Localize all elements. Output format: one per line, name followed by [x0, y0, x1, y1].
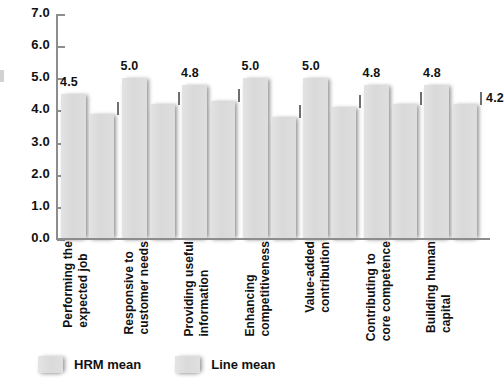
legend-label: HRM mean	[74, 357, 141, 372]
x-axis-category-label-text: Building human capital	[424, 241, 453, 333]
y-axis-tick-label: 3.0	[10, 134, 50, 149]
x-axis-category-label-rotator: Enhancing competitiveness	[243, 241, 299, 349]
bar-hrm-mean	[61, 94, 86, 239]
legend-label: Line mean	[211, 357, 275, 372]
bar-line-mean	[150, 104, 175, 239]
bar-group: 5.03.8	[243, 14, 299, 239]
bar-value-label-hrm: 5.0	[121, 59, 139, 73]
x-axis-category-label-text: Enhancing competitiveness	[243, 241, 272, 337]
legend-item[interactable]: Line mean	[175, 356, 275, 373]
bar-line-mean	[271, 117, 296, 239]
x-axis-category-label-text: Responsive to customer needs	[122, 241, 151, 334]
bar-line-mean	[89, 114, 114, 239]
x-axis-category-label: Providing useful information	[182, 241, 238, 349]
bar-hrm-mean	[122, 78, 147, 239]
bar-hrm-mean	[303, 78, 328, 239]
chart-legend: HRM meanLine mean	[38, 356, 309, 373]
bar-group: 5.04.2	[122, 14, 178, 239]
x-axis-category-label: Performing the expected job	[61, 241, 117, 349]
legend-swatch	[38, 356, 63, 373]
x-axis-category-label-text: Providing useful information	[182, 241, 211, 337]
x-axis-category-label: Building human capital	[424, 241, 480, 349]
bar-line-mean	[392, 104, 417, 239]
bar-hrm-mean	[424, 85, 449, 239]
bar-value-label-hrm: 4.8	[181, 66, 199, 80]
bar-group: 4.53.9	[61, 14, 117, 239]
bar-value-label-line: 4.2	[480, 92, 504, 105]
x-axis-category-label-rotator: Building human capital	[424, 241, 480, 349]
bar-line-mean	[331, 107, 356, 239]
bar-hrm-mean	[243, 78, 268, 239]
x-axis-category-label-rotator: Performing the expected job	[61, 241, 117, 349]
y-axis-tick-label: 1.0	[10, 198, 50, 213]
x-axis-category-label-rotator: Providing useful information	[182, 241, 238, 349]
x-axis-category-label-text: Value-added contribution	[303, 241, 332, 313]
legend-swatch	[175, 356, 200, 373]
plot-area: 4.53.95.04.24.84.35.03.85.04.14.84.24.84…	[58, 14, 490, 239]
legend-item[interactable]: HRM mean	[38, 356, 141, 373]
bar-group: 4.84.2	[424, 14, 480, 239]
x-axis-category-label: Enhancing competitiveness	[243, 241, 299, 349]
bar-line-mean	[210, 101, 235, 239]
bar-hrm-mean	[364, 85, 389, 239]
x-axis-category-label-text: Performing the expected job	[61, 241, 90, 328]
bar-value-label-hrm: 5.0	[242, 59, 260, 73]
x-axis-line	[56, 238, 490, 240]
y-axis-tick-label: 0.0	[10, 230, 50, 245]
bar-value-label-hrm: 4.5	[60, 75, 78, 89]
bar-group: 5.04.1	[303, 14, 359, 239]
bar-value-label-hrm: 5.0	[302, 59, 320, 73]
y-axis-tick-label: 7.0	[10, 5, 50, 20]
x-axis-category-label-rotator: Value-added contribution	[303, 241, 359, 349]
x-axis-category-labels: Performing the expected jobResponsive to…	[58, 241, 490, 349]
x-axis-category-label-rotator: Contributing to core competence	[364, 241, 420, 349]
x-axis-category-label-text: Contributing to core competence	[364, 241, 393, 341]
bar-group: 4.84.2	[364, 14, 420, 239]
bar-hrm-mean	[182, 85, 207, 239]
x-axis-category-label: Contributing to core competence	[364, 241, 420, 349]
bar-line-mean	[452, 104, 477, 239]
bar-value-label-hrm: 4.8	[363, 66, 381, 80]
bar-value-label-hrm: 4.8	[423, 66, 441, 80]
axis-title-artifact	[0, 70, 4, 82]
y-axis-tick-label: 5.0	[10, 69, 50, 84]
y-axis-tick-label: 2.0	[10, 166, 50, 181]
y-axis-tick-label: 6.0	[10, 37, 50, 52]
x-axis-category-label-rotator: Responsive to customer needs	[122, 241, 178, 349]
x-axis-category-label: Responsive to customer needs	[122, 241, 178, 349]
bar-group: 4.84.3	[182, 14, 238, 239]
x-axis-category-label: Value-added contribution	[303, 241, 359, 349]
y-axis-tick-label: 4.0	[10, 101, 50, 116]
